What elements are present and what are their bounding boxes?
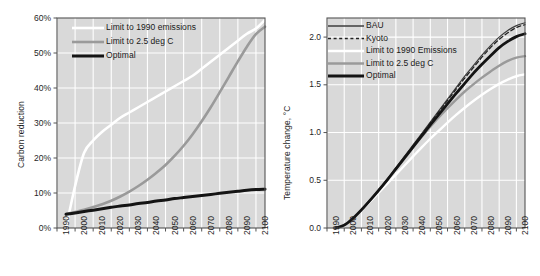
x-tick-label: 2010 <box>97 216 107 235</box>
x-tick-label: 1990 <box>331 216 341 235</box>
y-tick-label: 0% <box>19 223 51 233</box>
legend-label: Limit to 2.5 deg C <box>366 58 434 68</box>
x-tick-label: 2050 <box>170 216 180 235</box>
x-tick-label: 2010 <box>365 216 375 235</box>
legend-label: Kyoto <box>366 33 388 43</box>
legend-label: Optimal <box>366 70 396 80</box>
y-tick-label: 1.0 <box>289 127 321 137</box>
y-tick-label: 40% <box>19 83 51 93</box>
x-tick-label: 2030 <box>133 216 143 235</box>
x-tick-label: 2090 <box>242 216 252 235</box>
y-axis-title: Temperature change, °C <box>282 106 292 200</box>
legend-label: Limit to 1990 emissions <box>106 22 196 32</box>
legend-label: Optimal <box>106 50 136 60</box>
x-tick-label: 1990 <box>61 216 71 235</box>
y-tick-label: 0.0 <box>289 223 321 233</box>
chart-panel-carbon-reduction: Carbon reduction 0%10%20%30%40%50%60% 19… <box>0 0 270 276</box>
figure-two-panel-climate-charts: Carbon reduction 0%10%20%30%40%50%60% 19… <box>0 0 540 276</box>
x-tick-label: 2100 <box>520 216 530 235</box>
x-tick-label: 2020 <box>115 216 125 235</box>
y-tick-label: 50% <box>19 48 51 58</box>
y-tick-label: 60% <box>19 13 51 23</box>
x-tick-label: 2040 <box>151 216 161 235</box>
y-tick-label: 20% <box>19 153 51 163</box>
x-tick-label: 2040 <box>417 216 427 235</box>
legend-label: Limit to 2.5 deg C <box>106 36 174 46</box>
x-tick-label: 2100 <box>260 216 270 235</box>
x-tick-label: 2050 <box>434 216 444 235</box>
x-tick-label: 2060 <box>452 216 462 235</box>
x-tick-label: 2070 <box>469 216 479 235</box>
x-tick-label: 2080 <box>224 216 234 235</box>
x-tick-label: 2030 <box>400 216 410 235</box>
x-tick-label: 2000 <box>348 216 358 235</box>
x-tick-label: 2080 <box>486 216 496 235</box>
y-tick-label: 10% <box>19 188 51 198</box>
y-tick-label: 2.0 <box>289 32 321 42</box>
legend-label: BAU <box>366 20 384 30</box>
legend-label: Limit to 1990 Emissions <box>366 45 457 55</box>
x-tick-label: 2070 <box>206 216 216 235</box>
x-tick-label: 2000 <box>79 216 89 235</box>
x-tick-label: 2090 <box>503 216 513 235</box>
x-tick-label: 2020 <box>383 216 393 235</box>
y-tick-label: 30% <box>19 118 51 128</box>
x-tick-label: 2060 <box>188 216 198 235</box>
y-tick-label: 1.5 <box>289 79 321 89</box>
chart-panel-temperature-change: Temperature change, °C 0.00.51.01.52.0 1… <box>270 0 540 276</box>
y-tick-label: 0.5 <box>289 175 321 185</box>
